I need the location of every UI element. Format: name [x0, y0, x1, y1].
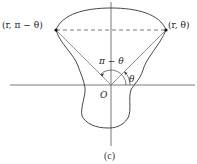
left-point-label: (r, π − θ)	[2, 20, 43, 30]
angle-theta-label: θ	[129, 74, 135, 84]
right-point-label: (r, θ)	[168, 20, 189, 30]
figure-caption: (c)	[104, 150, 115, 162]
origin-label: O	[100, 90, 108, 100]
angle-supplement-label: π − θ	[98, 56, 124, 66]
polar-symmetry-diagram: (r, π − θ) (r, θ) π − θ θ O (c)	[0, 0, 197, 164]
point-left	[54, 28, 57, 31]
